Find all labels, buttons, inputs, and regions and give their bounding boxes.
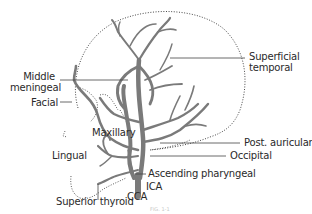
post-neck-outline: [150, 140, 190, 150]
label-lingual: Lingual: [52, 150, 87, 161]
chin-outline: [63, 131, 102, 199]
label-facial: Facial: [18, 97, 58, 108]
label-superficial-temporal-line2: temporal: [249, 62, 300, 73]
figure-caption: FIG. 1-1: [150, 206, 170, 212]
label-superficial-temporal-line1: Superficial: [249, 51, 300, 62]
label-superficial-temporal: Superficial temporal: [249, 51, 300, 73]
label-middle-meningeal-line2: meningeal: [10, 82, 55, 93]
label-post-auricular: Post. auricular: [244, 137, 312, 148]
label-middle-meningeal-line1: Middle: [10, 71, 55, 82]
label-maxillary: Maxillary: [92, 127, 135, 138]
label-occipital: Occipital: [230, 150, 272, 161]
label-ascending-pharyngeal: Ascending pharyngeal: [148, 168, 256, 179]
label-superior-thyroid: Superior thyroid: [56, 196, 134, 207]
vessel-occipital: [143, 104, 208, 142]
vessel-eca: [138, 60, 143, 178]
label-cca: CCA: [127, 191, 147, 202]
vessel-middle-meningeal: [117, 66, 139, 108]
label-ica: ICA: [146, 181, 162, 192]
label-middle-meningeal: Middle meningeal: [10, 71, 55, 93]
